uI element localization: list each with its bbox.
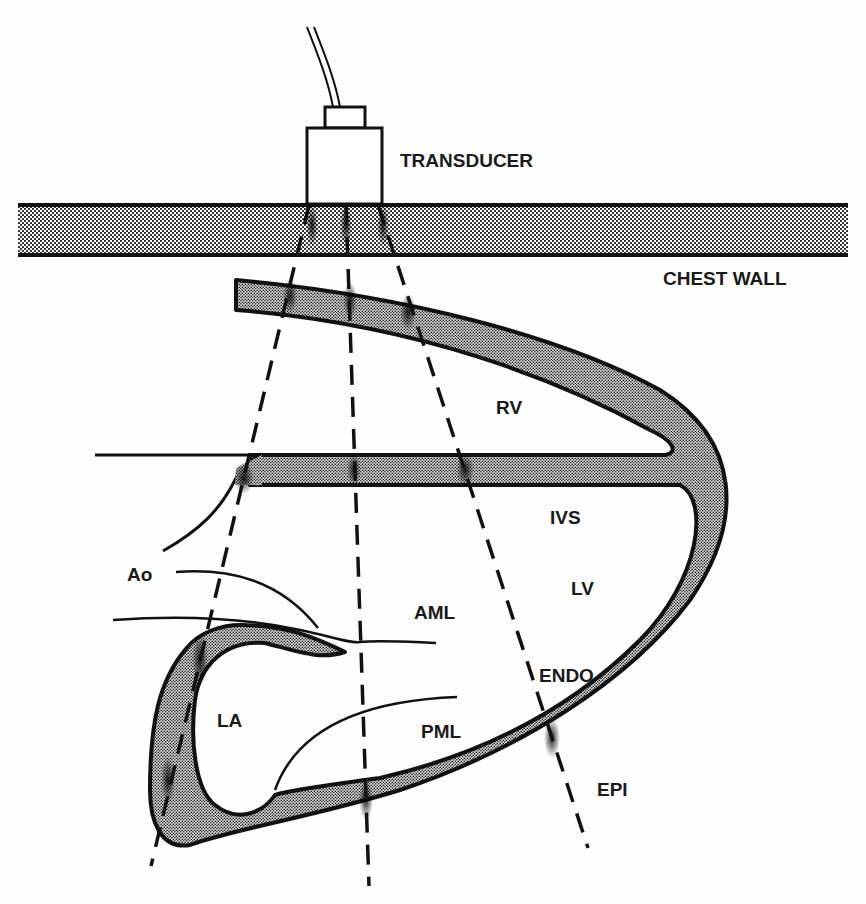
label-endo: ENDO <box>539 666 594 685</box>
label-epi: EPI <box>597 780 628 799</box>
label-pml: PML <box>421 722 461 741</box>
chest-wall-band <box>18 205 848 255</box>
heart-echo-diagram <box>0 0 866 904</box>
label-la: LA <box>217 711 242 730</box>
label-rv: RV <box>496 398 522 417</box>
aortic-posterior-wall <box>176 571 318 628</box>
label-lv: LV <box>571 579 594 598</box>
heart-wall <box>150 280 726 846</box>
label-chest-wall: CHEST WALL <box>663 269 787 288</box>
diagram-canvas: TRANSDUCER CHEST WALL RV IVS Ao LV AML E… <box>0 0 866 904</box>
transducer-cable <box>307 27 340 107</box>
label-aml: AML <box>414 603 455 622</box>
label-transducer: TRANSDUCER <box>400 151 533 170</box>
label-ao: Ao <box>127 565 152 584</box>
label-ivs: IVS <box>550 508 581 527</box>
transducer-icon <box>307 107 382 204</box>
